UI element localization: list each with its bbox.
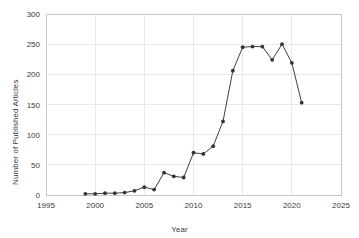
data-point (251, 45, 255, 49)
x-tick-label: 2010 (185, 201, 203, 210)
y-tick-label: 100 (27, 131, 41, 140)
data-point (231, 69, 235, 73)
data-point (241, 45, 245, 49)
data-point (103, 191, 107, 195)
gridlines (46, 14, 341, 195)
data-point (93, 192, 97, 196)
y-tick-label: 50 (31, 161, 40, 170)
y-tick-label: 150 (27, 101, 41, 110)
x-tick-label: 1995 (37, 201, 55, 210)
data-point (211, 144, 215, 148)
data-point (162, 171, 166, 175)
y-tick-label: 200 (27, 70, 41, 79)
chart-container: Number of Published Articles Year 050100… (0, 0, 359, 238)
data-point (280, 42, 284, 46)
x-tick-label: 2025 (332, 201, 350, 210)
data-point (152, 188, 156, 192)
data-point (290, 61, 294, 65)
data-point (260, 45, 264, 49)
x-tick-label: 2000 (86, 201, 104, 210)
y-axis-tick-labels: 050100150200250300 (27, 10, 41, 200)
data-point (300, 101, 304, 105)
data-point (182, 176, 186, 180)
data-point (83, 192, 87, 196)
x-tick-label: 2005 (135, 201, 153, 210)
line-chart-plot: 050100150200250300 199520002005201020152… (0, 0, 359, 238)
x-axis-tick-labels: 1995200020052010201520202025 (37, 201, 350, 210)
y-tick-label: 300 (27, 10, 41, 19)
data-point (133, 189, 137, 193)
x-tick-label: 2015 (234, 201, 252, 210)
data-point (270, 58, 274, 62)
data-point (172, 174, 176, 178)
data-point (142, 185, 146, 189)
data-point (113, 191, 117, 195)
data-point (192, 151, 196, 155)
y-tick-label: 250 (27, 40, 41, 49)
x-tick-label: 2020 (283, 201, 301, 210)
data-point (123, 191, 127, 195)
data-point (201, 152, 205, 156)
data-point (221, 119, 225, 123)
y-tick-label: 0 (36, 191, 41, 200)
